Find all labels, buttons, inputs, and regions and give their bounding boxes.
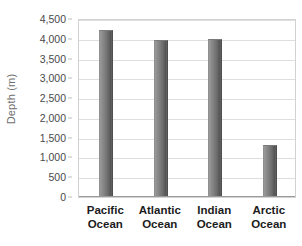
- bar: [99, 30, 113, 196]
- y-tick-mark: [68, 177, 72, 178]
- y-axis-ticks: 05001,0001,5002,0002,5003,0003,5004,0004…: [22, 19, 72, 198]
- y-tick-label: 3,500: [40, 53, 66, 65]
- y-tick-mark: [68, 78, 72, 79]
- y-tick-mark: [68, 117, 72, 118]
- y-tick-mark: [68, 19, 72, 20]
- x-tick-label: ArcticOcean: [251, 203, 286, 231]
- x-axis-labels: PacificOceanAtlanticOceanIndianOceanArct…: [78, 203, 296, 243]
- y-tick-label: 0: [60, 191, 66, 203]
- y-tick-label: 1,000: [40, 151, 66, 163]
- x-tick-label-line: Indian: [197, 204, 231, 216]
- y-tick-label: 4,500: [40, 13, 66, 25]
- y-tick-mark: [68, 98, 72, 99]
- y-tick-mark: [68, 58, 72, 59]
- y-axis-title-text: Depth (m): [5, 74, 17, 125]
- plot-area: [78, 19, 296, 198]
- bar: [208, 39, 222, 196]
- x-tick-label-line: Ocean: [197, 217, 232, 231]
- x-tick-label-line: Atlantic: [139, 204, 181, 216]
- y-tick-mark: [68, 137, 72, 138]
- y-tick-label: 4,000: [40, 33, 66, 45]
- y-tick-label: 1,500: [40, 132, 66, 144]
- x-tick-label-line: Ocean: [251, 217, 286, 231]
- bar-chart-figure: Depth (m) 05001,0001,5002,0002,5003,0003…: [0, 0, 302, 246]
- gridline: [79, 20, 295, 21]
- y-tick-mark: [68, 38, 72, 39]
- bar: [154, 40, 168, 196]
- y-axis-title: Depth (m): [0, 0, 22, 198]
- x-tick-label-line: Arctic: [252, 204, 285, 216]
- y-tick-label: 2,000: [40, 112, 66, 124]
- x-axis-line: [79, 196, 295, 197]
- x-tick-label-line: Pacific: [87, 204, 124, 216]
- x-tick-label-line: Ocean: [139, 217, 181, 231]
- x-tick-label: AtlanticOcean: [139, 203, 181, 231]
- bar: [263, 145, 277, 196]
- y-tick-label: 500: [48, 171, 66, 183]
- y-tick-mark: [68, 197, 72, 198]
- y-tick-mark: [68, 157, 72, 158]
- x-tick-label: PacificOcean: [87, 203, 124, 231]
- x-tick-label: IndianOcean: [197, 203, 232, 231]
- y-tick-label: 3,000: [40, 72, 66, 84]
- y-tick-label: 2,500: [40, 92, 66, 104]
- x-tick-label-line: Ocean: [87, 217, 124, 231]
